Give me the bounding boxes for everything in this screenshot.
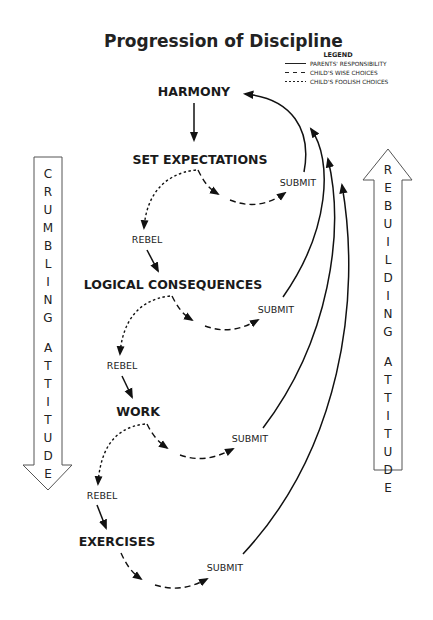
svg-text:I: I (386, 235, 390, 249)
svg-text:U: U (384, 445, 393, 459)
svg-text:T: T (43, 377, 52, 391)
wise-choice-2a (172, 296, 192, 320)
crumbling-attitude-arrow: C R U M B L I N G A T T I T U D E (23, 157, 72, 490)
foolish-choice-2 (120, 296, 170, 354)
wise-choice-2b (205, 320, 258, 330)
svg-text:L: L (385, 253, 392, 267)
svg-text:A: A (44, 341, 53, 355)
svg-text:I: I (386, 409, 390, 423)
svg-text:I: I (46, 275, 50, 289)
legend-heading: LEGEND (323, 51, 353, 59)
svg-text:D: D (383, 463, 392, 477)
svg-text:U: U (44, 203, 53, 217)
svg-text:T: T (43, 413, 52, 427)
discipline-diagram: Progression of Discipline LEGEND PARENTS… (0, 0, 433, 620)
submit-label-4: SUBMIT (207, 562, 243, 573)
node-set-expectations: SET EXPECTATIONS (133, 152, 268, 167)
svg-text:G: G (383, 325, 392, 339)
rebel-to-logical-consequences-arrow (147, 250, 158, 271)
svg-text:I: I (46, 395, 50, 409)
rebel-label-3: REBEL (87, 490, 118, 501)
foolish-choice-1 (144, 170, 196, 228)
submit-label-1: SUBMIT (280, 177, 316, 188)
legend-foolish-label: CHILD'S FOOLISH CHOICES (310, 79, 389, 85)
svg-text:I: I (386, 289, 390, 303)
svg-text:D: D (383, 271, 392, 285)
rebel-label-1: REBEL (132, 234, 163, 245)
rebel-to-exercises-arrow (97, 505, 106, 528)
svg-text:E: E (44, 467, 52, 481)
wise-choice-1a (198, 170, 218, 194)
svg-text:B: B (44, 239, 52, 253)
svg-text:U: U (384, 217, 393, 231)
submit-label-2: SUBMIT (258, 304, 294, 315)
legend-parents-label: PARENTS' RESPONSIBILITY (310, 61, 387, 67)
wise-choice-3a (147, 424, 167, 448)
node-logical-consequences: LOGICAL CONSEQUENCES (84, 277, 263, 292)
submit-to-harmony-arc-2 (283, 129, 324, 297)
rebuilding-attitude-arrow: R E B U I L D I N G A T T I T U D E (363, 149, 412, 495)
wise-choice-4a (121, 553, 141, 579)
wise-choice-1b (230, 193, 285, 204)
legend: LEGEND PARENTS' RESPONSIBILITY CHILD'S W… (285, 51, 389, 85)
svg-text:D: D (43, 449, 52, 463)
svg-text:A: A (384, 355, 393, 369)
node-exercises: EXERCISES (79, 534, 156, 549)
svg-text:C: C (44, 167, 52, 181)
wise-choice-4b (155, 579, 207, 588)
svg-text:G: G (43, 311, 52, 325)
rebel-label-2: REBEL (107, 360, 138, 371)
svg-text:E: E (384, 481, 392, 495)
submit-label-3: SUBMIT (232, 433, 268, 444)
node-harmony: HARMONY (158, 84, 231, 99)
rebel-to-work-arrow (122, 376, 132, 397)
svg-text:N: N (384, 307, 393, 321)
rebuilding-attitude-letters: R E B U I L D I N G A T T I T U D E (383, 163, 393, 495)
svg-text:N: N (44, 293, 53, 307)
legend-wise-label: CHILD'S WISE CHOICES (310, 70, 378, 76)
svg-text:T: T (43, 359, 52, 373)
svg-text:R: R (384, 163, 392, 177)
svg-text:T: T (383, 391, 392, 405)
foolish-choice-3 (98, 424, 145, 484)
svg-text:T: T (383, 427, 392, 441)
node-work: WORK (116, 404, 161, 419)
svg-text:E: E (384, 181, 392, 195)
svg-text:T: T (383, 373, 392, 387)
svg-text:L: L (45, 257, 52, 271)
diagram-title: Progression of Discipline (104, 31, 343, 51)
wise-choice-3b (180, 449, 233, 459)
svg-text:U: U (44, 431, 53, 445)
svg-text:R: R (44, 185, 52, 199)
crumbling-attitude-letters: C R U M B L I N G A T T I T U D E (43, 167, 53, 481)
svg-text:B: B (384, 199, 392, 213)
submit-to-harmony-arc-4 (243, 185, 349, 554)
svg-text:M: M (43, 221, 53, 235)
